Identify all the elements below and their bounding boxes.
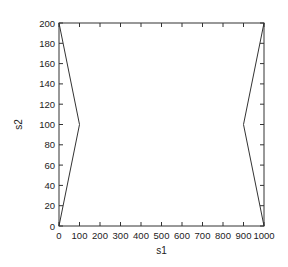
y-tick-label: 180 (39, 38, 55, 49)
x-tick-label: 500 (154, 230, 170, 241)
y-tick-label: 120 (39, 99, 55, 110)
x-tick-label: 200 (92, 230, 108, 241)
x-tick-label: 300 (113, 230, 129, 241)
y-tick-label: 100 (39, 119, 55, 130)
plot-frame (59, 23, 264, 226)
y-tick-label: 200 (39, 18, 55, 29)
x-tick-label: 400 (133, 230, 149, 241)
x-tick-label: 100 (72, 230, 88, 241)
x-tick-label: 1000 (253, 230, 274, 241)
y-tick-label: 140 (39, 78, 55, 89)
x-tick-label: 900 (236, 230, 252, 241)
y-tick-label: 20 (44, 200, 55, 211)
x-tick-labels: 01002003004005006007008009001000 (56, 230, 274, 241)
chart: 01002003004005006007008009001000 0204060… (0, 0, 288, 267)
y-tick-label: 0 (50, 221, 55, 232)
y-axis-label: s2 (13, 119, 24, 130)
x-axis-label: s1 (156, 245, 167, 256)
y-tick-label: 80 (44, 139, 55, 150)
y-tick-label: 160 (39, 58, 55, 69)
data-series (59, 23, 264, 226)
x-tick-label: 800 (215, 230, 231, 241)
y-tick-label: 60 (44, 160, 55, 171)
x-tick-label: 0 (56, 230, 61, 241)
y-tick-labels: 020406080100120140160180200 (39, 18, 55, 232)
x-tick-label: 600 (174, 230, 190, 241)
y-tick-label: 40 (44, 180, 55, 191)
x-tick-label: 700 (195, 230, 211, 241)
axis-ticks (59, 23, 264, 226)
